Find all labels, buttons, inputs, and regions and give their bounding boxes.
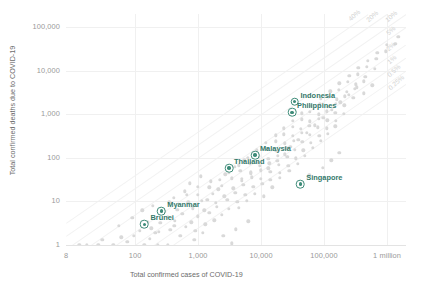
scatter-point[interactable] [287, 164, 290, 167]
scatter-point[interactable] [311, 146, 314, 149]
scatter-point[interactable] [227, 207, 230, 210]
scatter-point[interactable] [275, 159, 278, 162]
scatter-point[interactable] [100, 238, 103, 241]
scatter-point[interactable] [307, 124, 310, 127]
scatter-point[interactable] [270, 186, 273, 189]
scatter-point[interactable] [261, 182, 264, 185]
scatter-point[interactable] [119, 236, 122, 239]
scatter-point[interactable] [241, 183, 244, 186]
scatter-point[interactable] [168, 228, 171, 231]
scatter-point[interactable] [217, 188, 220, 191]
scatter-point[interactable] [215, 205, 218, 208]
scatter-point[interactable] [207, 186, 210, 189]
scatter-point[interactable] [207, 211, 210, 214]
scatter-point[interactable] [237, 206, 240, 209]
scatter-point[interactable] [209, 180, 212, 183]
scatter-point[interactable] [355, 85, 358, 88]
scatter-point[interactable] [309, 141, 312, 144]
scatter-point[interactable] [151, 204, 154, 207]
scatter-point[interactable] [178, 234, 181, 237]
scatter-point[interactable] [375, 57, 378, 60]
scatter-point[interactable] [316, 126, 319, 129]
scatter-point[interactable] [234, 191, 237, 194]
scatter-point[interactable] [343, 104, 346, 107]
highlighted-point-philippines[interactable] [288, 108, 297, 117]
scatter-point[interactable] [173, 224, 176, 227]
scatter-point[interactable] [326, 132, 329, 135]
scatter-point[interactable] [230, 177, 233, 180]
scatter-point[interactable] [362, 92, 365, 95]
scatter-point[interactable] [363, 75, 366, 78]
scatter-point[interactable] [376, 51, 379, 54]
scatter-point[interactable] [234, 228, 237, 231]
scatter-point[interactable] [262, 195, 265, 198]
scatter-point[interactable] [131, 216, 134, 219]
scatter-point[interactable] [347, 74, 350, 77]
scatter-point[interactable] [157, 230, 160, 233]
scatter-point[interactable] [308, 110, 311, 113]
scatter-point[interactable] [325, 119, 328, 122]
scatter-point[interactable] [211, 192, 214, 195]
highlighted-point-thailand[interactable] [225, 164, 234, 173]
scatter-point[interactable] [190, 221, 193, 224]
scatter-point[interactable] [278, 171, 281, 174]
scatter-point[interactable] [274, 134, 277, 137]
scatter-point[interactable] [149, 227, 152, 230]
scatter-point[interactable] [269, 178, 272, 181]
scatter-point[interactable] [277, 163, 280, 166]
scatter-point[interactable] [396, 35, 399, 38]
scatter-point[interactable] [259, 177, 262, 180]
scatter-point[interactable] [330, 159, 333, 162]
scatter-point[interactable] [334, 119, 337, 122]
scatter-point[interactable] [365, 65, 368, 68]
scatter-point[interactable] [126, 240, 129, 243]
scatter-point[interactable] [141, 209, 144, 212]
scatter-point[interactable] [220, 213, 223, 216]
scatter-point[interactable] [193, 238, 196, 241]
highlighted-point-singapore[interactable] [296, 180, 305, 189]
scatter-point[interactable] [202, 208, 205, 211]
scatter-point[interactable] [138, 229, 141, 232]
scatter-point[interactable] [269, 170, 272, 173]
scatter-point[interactable] [221, 234, 224, 237]
scatter-point[interactable] [297, 138, 300, 141]
scatter-point[interactable] [351, 96, 354, 99]
scatter-point[interactable] [212, 219, 215, 222]
scatter-point[interactable] [317, 113, 320, 116]
scatter-point[interactable] [188, 182, 191, 185]
scatter-point[interactable] [338, 151, 341, 154]
scatter-point[interactable] [247, 220, 250, 223]
scatter-point[interactable] [204, 223, 207, 226]
scatter-point[interactable] [181, 212, 184, 215]
scatter-point[interactable] [325, 126, 328, 129]
scatter-point[interactable] [193, 229, 196, 232]
scatter-point[interactable] [224, 173, 227, 176]
scatter-point[interactable] [220, 184, 223, 187]
scatter-point[interactable] [296, 162, 299, 165]
scatter-point[interactable] [278, 176, 281, 179]
scatter-point[interactable] [117, 224, 120, 227]
scatter-point[interactable] [291, 134, 294, 137]
scatter-point[interactable] [300, 131, 303, 134]
scatter-point[interactable] [199, 174, 202, 177]
scatter-point[interactable] [291, 125, 294, 128]
scatter-point[interactable] [300, 118, 303, 121]
scatter-point[interactable] [293, 148, 296, 151]
scatter-point[interactable] [267, 157, 270, 160]
scatter-point[interactable] [253, 192, 256, 195]
scatter-point[interactable] [282, 126, 285, 129]
scatter-point[interactable] [196, 214, 199, 217]
scatter-point[interactable] [158, 221, 161, 224]
scatter-point[interactable] [218, 178, 221, 181]
scatter-point[interactable] [333, 125, 336, 128]
scatter-point[interactable] [244, 193, 247, 196]
scatter-point[interactable] [236, 200, 239, 203]
scatter-point[interactable] [301, 140, 304, 143]
scatter-point[interactable] [233, 165, 236, 168]
scatter-point[interactable] [338, 82, 341, 85]
scatter-point[interactable] [317, 117, 320, 120]
scatter-point[interactable] [366, 59, 369, 62]
scatter-point[interactable] [357, 66, 360, 69]
scatter-point[interactable] [148, 237, 151, 240]
scatter-point[interactable] [196, 193, 199, 196]
